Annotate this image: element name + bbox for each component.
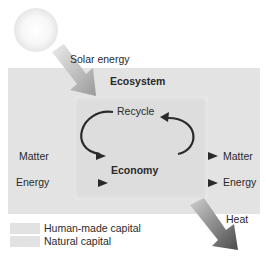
solar-energy-arrow xyxy=(52,44,96,96)
heat-label: Heat xyxy=(226,213,248,225)
economy-label: Economy xyxy=(111,164,158,176)
matter-output-label: Matter xyxy=(223,150,253,162)
energy-out-arrowhead xyxy=(208,179,218,187)
matter-out-arrowhead xyxy=(208,152,218,160)
energy-input-label: Energy xyxy=(16,176,49,188)
recycle-curve-left xyxy=(81,112,113,154)
recycle-label: Recycle xyxy=(117,105,154,117)
solar-energy-label: Solar energy xyxy=(70,53,130,65)
legend-swatch-human-made xyxy=(10,223,40,234)
legend-label-natural: Natural capital xyxy=(44,235,111,247)
legend: Human-made capital Natural capital xyxy=(10,222,141,247)
matter-in-arrowhead xyxy=(96,152,106,160)
recycle-arrowhead xyxy=(160,112,169,122)
ecosystem-label: Ecosystem xyxy=(110,75,165,87)
legend-label-human-made: Human-made capital xyxy=(44,222,141,234)
matter-input-label: Matter xyxy=(19,150,49,162)
legend-item-human-made: Human-made capital xyxy=(10,222,141,234)
recycle-curve-right xyxy=(168,118,193,154)
legend-item-natural: Natural capital xyxy=(10,235,141,247)
energy-output-label: Energy xyxy=(223,176,256,188)
legend-swatch-natural xyxy=(10,236,40,247)
energy-in-arrowhead xyxy=(98,179,108,187)
